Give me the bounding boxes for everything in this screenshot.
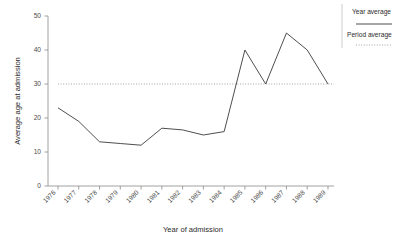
chart-legend: Year average Period average bbox=[342, 4, 392, 48]
x-tick-label-1981: 1981 bbox=[145, 189, 161, 205]
x-axis-title: Year of admission bbox=[163, 225, 223, 234]
y-tick-label-50: 50 bbox=[34, 12, 42, 19]
line-chart: 0 10 20 30 40 50 Average age at admissio… bbox=[0, 0, 406, 245]
x-axis-ticks bbox=[58, 186, 328, 190]
y-axis-ticks bbox=[45, 16, 49, 186]
y-tick-label-10: 10 bbox=[34, 148, 42, 155]
x-tick-label-1977: 1977 bbox=[62, 189, 78, 205]
year-average-series-line bbox=[58, 33, 328, 145]
y-tick-label-30: 30 bbox=[34, 80, 42, 87]
x-tick-label-1984: 1984 bbox=[208, 189, 224, 205]
legend-label-year-average: Year average bbox=[352, 8, 391, 16]
x-tick-label-1982: 1982 bbox=[166, 189, 182, 205]
x-tick-label-1983: 1983 bbox=[187, 189, 203, 205]
x-tick-label-1988: 1988 bbox=[291, 189, 307, 205]
y-tick-label-20: 20 bbox=[34, 114, 42, 121]
y-tick-label-0: 0 bbox=[37, 182, 41, 189]
y-tick-label-40: 40 bbox=[34, 46, 42, 53]
chart-container: 0 10 20 30 40 50 Average age at admissio… bbox=[0, 0, 406, 245]
x-tick-label-1978: 1978 bbox=[83, 189, 99, 205]
x-tick-label-1985: 1985 bbox=[228, 189, 244, 205]
x-tick-label-1986: 1986 bbox=[249, 189, 265, 205]
legend-label-period-average: Period average bbox=[347, 31, 392, 39]
x-tick-label-1980: 1980 bbox=[124, 189, 140, 205]
x-tick-label-1987: 1987 bbox=[270, 189, 286, 205]
x-tick-label-1976: 1976 bbox=[41, 189, 57, 205]
x-tick-label-1989: 1989 bbox=[311, 189, 327, 205]
x-tick-label-1979: 1979 bbox=[104, 189, 120, 205]
y-axis-title: Average age at admission bbox=[13, 57, 22, 145]
